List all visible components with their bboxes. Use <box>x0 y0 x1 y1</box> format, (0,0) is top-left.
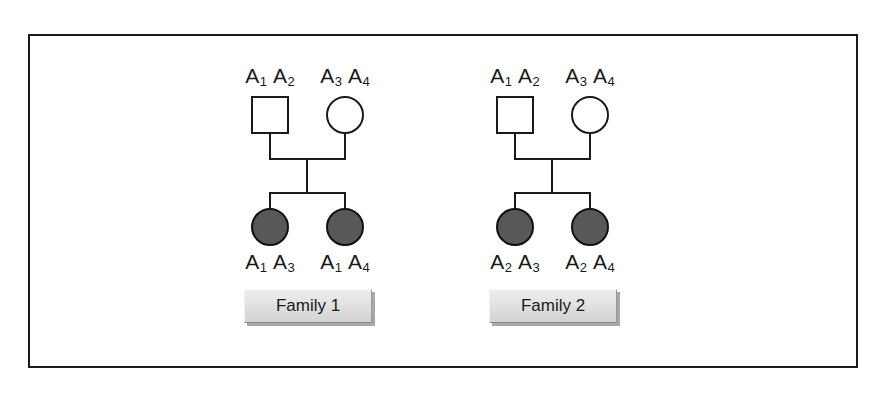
allele-pair-1-0: A1 <box>490 64 512 87</box>
allele-pair-0-4: A1 <box>245 250 267 273</box>
allele-pair-0-2: A3 <box>320 64 342 87</box>
figure-frame: A1A2 A3A4 A1A3 A1A4 Family <box>28 34 858 368</box>
allele-pair-0-0: A1 <box>245 64 267 87</box>
allele-pair-1-4: A2 <box>490 250 512 273</box>
mother-descent-line <box>344 134 346 158</box>
child-symbol-affected-female <box>496 208 534 246</box>
sibship-descent-line <box>551 158 553 192</box>
mother-genotype-label: A3A4 <box>510 64 670 89</box>
family-label-button[interactable]: Family 1 <box>244 289 372 323</box>
allele-subscript: 3 <box>335 74 342 89</box>
family-label-button[interactable]: Family 2 <box>489 289 617 323</box>
allele-subscript: 4 <box>363 260 370 275</box>
child-symbol-affected-female <box>326 208 364 246</box>
allele-subscript: 4 <box>608 74 615 89</box>
child-symbol-affected-female <box>571 208 609 246</box>
allele-pair-1-3: A4 <box>593 64 615 87</box>
pedigree-family-2: A1A2 A3A4 A2A3 A2A4 Family 2 <box>480 36 725 370</box>
allele-subscript: 1 <box>335 260 342 275</box>
allele-subscript: 3 <box>580 74 587 89</box>
family-label-text: Family 2 <box>521 296 585 316</box>
mother-descent-line <box>589 134 591 158</box>
family-label-text: Family 1 <box>276 296 340 316</box>
allele-pair-1-6: A2 <box>565 250 587 273</box>
child-symbol-affected-female <box>251 208 289 246</box>
mother-symbol-unaffected-female <box>326 96 364 134</box>
child-genotype-label: A1A4 <box>265 250 425 275</box>
father-symbol-unaffected-male <box>251 96 289 134</box>
allele-subscript: 4 <box>363 74 370 89</box>
allele-subscript: 2 <box>580 260 587 275</box>
father-symbol-unaffected-male <box>496 96 534 134</box>
mother-symbol-unaffected-female <box>571 96 609 134</box>
allele-pair-0-6: A1 <box>320 250 342 273</box>
allele-pair-1-2: A3 <box>565 64 587 87</box>
sibship-descent-line <box>306 158 308 192</box>
allele-pair-0-3: A4 <box>348 64 370 87</box>
allele-subscript: 4 <box>608 260 615 275</box>
allele-pair-0-7: A4 <box>348 250 370 273</box>
sibship-line <box>514 192 591 194</box>
father-descent-line <box>514 134 516 158</box>
mother-genotype-label: A3A4 <box>265 64 425 89</box>
sibship-line <box>269 192 346 194</box>
father-descent-line <box>269 134 271 158</box>
child-genotype-label: A2A4 <box>510 250 670 275</box>
allele-pair-1-7: A4 <box>593 250 615 273</box>
